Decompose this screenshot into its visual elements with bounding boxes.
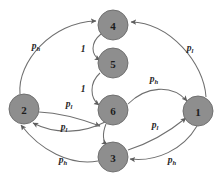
edge-label-6-2: pl	[60, 122, 68, 133]
edge-label-2-4: ph	[31, 41, 41, 52]
node-3[interactable]: 3	[98, 142, 128, 172]
node-4-label: 4	[110, 20, 116, 32]
node-2-label: 2	[21, 104, 27, 116]
node-2[interactable]: 2	[9, 94, 39, 124]
node-1-label: 1	[195, 106, 201, 118]
graph-diagram: 4 5 6 2 1 3	[0, 0, 224, 182]
nodes-layer: 4 5 6 2 1 3	[9, 10, 213, 172]
graph-canvas: 4 5 6 2 1 3	[0, 0, 224, 182]
node-3-label: 3	[110, 152, 116, 164]
edge-6-to-3	[103, 124, 107, 144]
node-5[interactable]: 5	[98, 48, 128, 78]
edge-1-to-3	[130, 126, 197, 159]
edge-label-3-2: ph	[58, 155, 68, 166]
edge-label-3-1: pl	[151, 120, 159, 131]
edges-layer	[20, 21, 206, 162]
edge-label-5-6: 1	[81, 84, 86, 94]
node-6[interactable]: 6	[98, 95, 128, 125]
edge-label-2-6: pl	[65, 99, 73, 110]
edge-3-to-1	[128, 118, 186, 150]
edge-label-6-1: ph	[149, 74, 159, 85]
node-4[interactable]: 4	[98, 10, 128, 40]
edge-2-to-6	[39, 112, 100, 126]
edge-5-to-6	[92, 73, 100, 105]
edge-1-to-4	[131, 22, 206, 97]
edge-6-to-1	[128, 89, 187, 104]
edge-label-1-4: pl	[186, 43, 194, 54]
node-5-label: 5	[110, 58, 116, 70]
node-6-label: 6	[110, 105, 116, 117]
edge-label-1-3: ph	[167, 155, 177, 166]
edge-label-4-5: 1	[81, 44, 86, 54]
node-1[interactable]: 1	[183, 96, 213, 126]
